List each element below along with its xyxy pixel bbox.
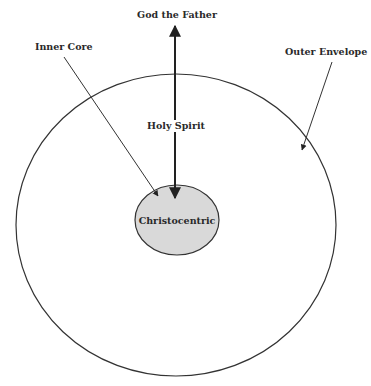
label-christocentric: Christocentric [139, 215, 216, 226]
label-outer-envelope: Outer Envelope [285, 46, 367, 57]
label-inner-core: Inner Core [35, 41, 93, 52]
label-god-the-father: God the Father [137, 9, 218, 20]
inner-core-pointer-arrow [64, 57, 158, 196]
label-holy-spirit: Holy Spirit [147, 120, 205, 131]
diagram-canvas: God the Father Inner Core Outer Envelope… [0, 0, 371, 386]
outer-envelope-pointer-arrow [302, 62, 332, 150]
